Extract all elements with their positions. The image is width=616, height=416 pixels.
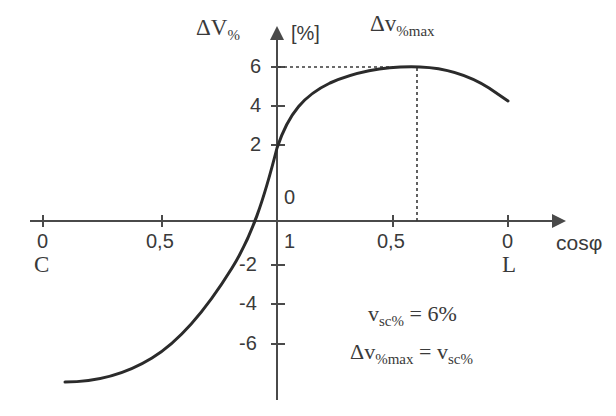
curve-delta-v	[65, 67, 508, 382]
y-tick-label-minus-4: -4	[239, 293, 257, 313]
y-axis-title-main: ΔV	[196, 15, 227, 40]
x-tick-label-0-right: 0	[502, 231, 513, 251]
y-axis-title: ΔV%	[196, 16, 240, 43]
x-tick-label-0-left: 0	[37, 231, 48, 251]
peak-annotation-main: Δv	[370, 11, 396, 36]
region-label-inductive: L	[502, 253, 516, 276]
equation-vsc-sub: sc%	[379, 313, 404, 329]
x-axis-title: cosφ	[556, 232, 602, 253]
y-axis-unit: [%]	[291, 23, 320, 43]
y-tick-label-2: 2	[250, 134, 261, 154]
y-axis-arrow-icon	[270, 26, 284, 40]
peak-annotation-sub: %max	[396, 23, 434, 39]
x-tick-label-1-center: 1	[284, 231, 295, 251]
y-tick-label-minus-2: -2	[239, 254, 257, 274]
origin-zero-label: 0	[284, 187, 295, 207]
equation-deltav-sub2: sc%	[448, 351, 473, 367]
equation-deltav-max: Δv%max = vsc%	[350, 341, 473, 367]
chart-figure: ΔV% [%] Δv%max 6 4 2 -2 -4 -6 0 0 0,5 1 …	[0, 0, 616, 416]
y-axis-title-sub: %	[227, 27, 240, 43]
equation-vsc-rhs: = 6%	[410, 301, 457, 326]
y-tick-label-minus-6: -6	[239, 333, 257, 353]
equation-vsc: vsc% = 6%	[368, 303, 457, 329]
x-axis-arrow-icon	[552, 214, 566, 228]
peak-annotation-label: Δv%max	[370, 12, 435, 39]
equation-deltav-sub: %max	[375, 351, 413, 367]
x-tick-label-05-left: 0,5	[146, 231, 174, 251]
region-label-capacitive: C	[34, 253, 49, 276]
equation-deltav-main: Δv	[350, 339, 375, 364]
y-tick-label-4: 4	[250, 95, 261, 115]
chart-canvas	[0, 0, 616, 416]
equation-vsc-main: v	[368, 301, 379, 326]
equation-deltav-mid: = v	[419, 339, 448, 364]
x-tick-label-05-right: 0,5	[377, 231, 405, 251]
y-tick-label-6: 6	[250, 56, 261, 76]
